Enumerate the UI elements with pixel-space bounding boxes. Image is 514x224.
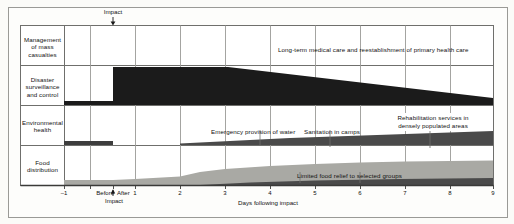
- annotation-limited-food-relief: Limited food relief to selected groups: [297, 172, 402, 180]
- x-label-impact: Impact: [100, 198, 128, 204]
- figure-root: Management of mass casualties Disaster s…: [0, 0, 514, 224]
- x-tick-4: 4: [257, 190, 283, 196]
- impact-marker-label: Impact: [88, 8, 138, 15]
- x-tick-6: 6: [347, 190, 373, 196]
- x-tick-2: 2: [167, 190, 193, 196]
- row-label-environmental-health: Environmental health: [21, 119, 64, 134]
- annotation-rehabilitation-services: Rehabilitation services in densely popul…: [386, 113, 480, 131]
- impact-arrow-head: [111, 22, 116, 26]
- row-label-food-distribution: Food distribution: [21, 159, 64, 174]
- annotation-sanitation-camps: Sanitation in camps: [304, 128, 360, 136]
- x-tick-1: 1: [122, 190, 148, 196]
- x-axis-title: Days following impact: [188, 199, 348, 206]
- x-label-before: Before: [78, 190, 114, 196]
- row-label-disaster-surveillance: Disaster surveillance and control: [21, 76, 64, 98]
- x-tick-8: 8: [437, 190, 463, 196]
- annotation-long-term-medical-care: Long-term medical care and reestablishme…: [278, 46, 469, 54]
- row-label-mass-casualties: Management of mass casualties: [21, 36, 64, 58]
- chart-plot-area: Management of mass casualties Disaster s…: [0, 0, 514, 224]
- x-tick-7: 7: [392, 190, 418, 196]
- x-tick-minus-1: –1: [51, 190, 77, 196]
- x-tick-3: 3: [212, 190, 238, 196]
- x-tick-5: 5: [302, 190, 328, 196]
- annotation-emergency-water: Emergency provision of water: [211, 128, 295, 136]
- band-mass-casualties-pre: [64, 101, 113, 105]
- band-surveillance-pre: [64, 141, 113, 145]
- x-tick-9: 9: [480, 190, 506, 196]
